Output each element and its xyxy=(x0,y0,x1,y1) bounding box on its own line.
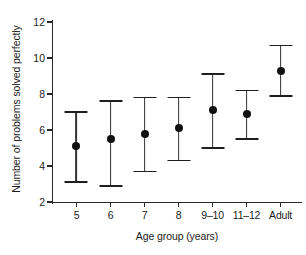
errorbar-cap-upper xyxy=(167,97,190,99)
x-axis-label: Age group (years) xyxy=(52,230,302,242)
x-tick-label: 6 xyxy=(108,209,114,221)
errorbar-cap-lower xyxy=(167,160,190,162)
errorbar-cap-lower xyxy=(201,147,224,149)
errorbar-cap-upper xyxy=(235,90,258,92)
x-tick-mark xyxy=(178,203,179,207)
errorbar-cap-lower xyxy=(65,181,88,183)
x-tick-mark xyxy=(76,203,77,207)
y-tick-label: 4 xyxy=(23,161,45,171)
y-axis-label: Number of problems solved perfectly xyxy=(8,4,24,214)
y-tick-label: 2 xyxy=(23,197,45,207)
chart-figure: Number of problems solved perfectly 2468… xyxy=(0,0,306,255)
data-point-marker xyxy=(209,106,217,114)
errorbar-cap-lower xyxy=(133,171,156,173)
errorbar-cap-upper xyxy=(269,45,292,47)
data-point-marker xyxy=(277,67,285,75)
data-point-marker xyxy=(141,130,149,138)
x-tick-mark xyxy=(212,203,213,207)
errorbar-cap-lower xyxy=(99,185,122,187)
x-tick-label: 7 xyxy=(142,209,148,221)
errorbar-stem xyxy=(110,101,112,186)
y-tick-label: 12 xyxy=(23,17,45,27)
x-tick-mark xyxy=(280,203,281,207)
x-tick-mark xyxy=(110,203,111,207)
x-tick-label: 5 xyxy=(74,209,80,221)
data-point-marker xyxy=(72,142,80,150)
errorbar-cap-lower xyxy=(269,95,292,97)
errorbar-cap-upper xyxy=(65,111,88,113)
data-point-marker xyxy=(175,124,183,132)
y-tick-label: 8 xyxy=(23,89,45,99)
x-tick-label: 9–10 xyxy=(201,209,224,221)
x-tick-label: Adult xyxy=(269,209,292,221)
errorbar-cap-upper xyxy=(133,97,156,99)
y-tick-label: 10 xyxy=(23,53,45,63)
y-tick-label: 6 xyxy=(23,125,45,135)
x-tick-mark xyxy=(144,203,145,207)
errorbar-cap-lower xyxy=(235,138,258,140)
data-point-marker xyxy=(107,135,115,143)
x-tick-label: 11–12 xyxy=(233,209,260,221)
errorbar-cap-upper xyxy=(201,73,224,75)
x-tick-label: 8 xyxy=(176,209,182,221)
errorbar-cap-upper xyxy=(99,100,122,102)
data-point-marker xyxy=(243,110,251,118)
x-tick-mark xyxy=(246,203,247,207)
